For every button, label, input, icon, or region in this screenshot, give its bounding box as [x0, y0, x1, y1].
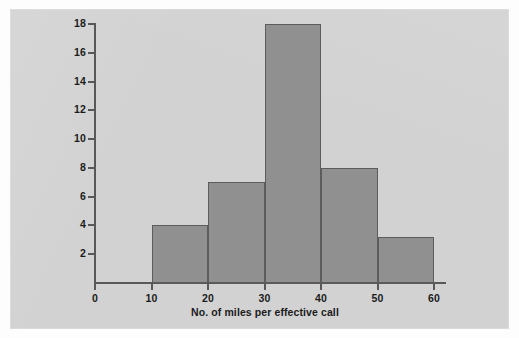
x-tick-mark	[264, 284, 266, 290]
y-tick-label-wrap: 8	[0, 161, 86, 174]
plot-area: 24681012141618 0102030405060 No. of mile…	[0, 0, 519, 338]
y-tick-label: 8	[64, 161, 86, 173]
x-tick-mark	[151, 284, 153, 290]
y-tick-label-wrap: 2	[0, 247, 86, 260]
x-tick-mark	[94, 284, 96, 290]
x-tick-mark	[320, 284, 322, 290]
y-tick-label: 18	[64, 17, 86, 29]
x-tick-mark	[433, 284, 435, 290]
x-tick-label: 60	[414, 292, 454, 304]
y-tick-mark	[88, 167, 94, 169]
y-tick-label-wrap: 18	[0, 17, 86, 30]
y-tick-mark	[88, 109, 94, 111]
y-tick-label-wrap: 4	[0, 218, 86, 231]
x-tick-label: 40	[301, 292, 341, 304]
y-axis-line	[94, 23, 96, 284]
y-tick-label: 4	[64, 218, 86, 230]
y-tick-mark	[88, 138, 94, 140]
y-tick-label-wrap: 14	[0, 75, 86, 88]
histogram-bar	[378, 237, 435, 283]
x-tick-label: 0	[75, 292, 115, 304]
histogram-bar	[265, 24, 322, 283]
x-tick-mark	[377, 284, 379, 290]
y-tick-mark	[88, 196, 94, 198]
y-tick-mark	[88, 253, 94, 255]
histogram-bar	[152, 225, 209, 283]
figure-container: 24681012141618 0102030405060 No. of mile…	[0, 0, 519, 338]
x-tick-label: 30	[245, 292, 285, 304]
y-tick-mark	[88, 81, 94, 83]
y-tick-label: 16	[64, 46, 86, 58]
y-tick-label: 10	[64, 132, 86, 144]
x-tick-label: 50	[358, 292, 398, 304]
y-tick-mark	[88, 23, 94, 25]
y-tick-label-wrap: 6	[0, 190, 86, 203]
x-axis-label: No. of miles per effective call	[95, 306, 435, 318]
y-tick-label: 6	[64, 190, 86, 202]
y-tick-label: 12	[64, 103, 86, 115]
y-tick-label-wrap: 10	[0, 132, 86, 145]
y-tick-label: 2	[64, 247, 86, 259]
y-tick-mark	[88, 52, 94, 54]
y-tick-label: 14	[64, 75, 86, 87]
x-tick-label: 20	[188, 292, 228, 304]
histogram-bar	[208, 182, 265, 283]
histogram-bar	[321, 168, 378, 283]
y-tick-mark	[88, 224, 94, 226]
y-tick-label-wrap: 16	[0, 46, 86, 59]
x-tick-mark	[207, 284, 209, 290]
y-tick-label-wrap: 12	[0, 103, 86, 116]
x-tick-label: 10	[132, 292, 172, 304]
